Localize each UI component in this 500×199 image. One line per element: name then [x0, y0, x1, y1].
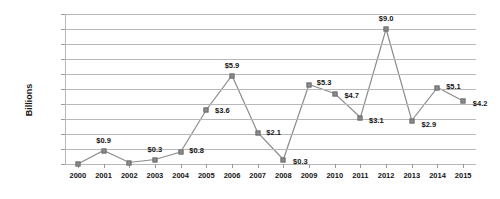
y-tick-mark: [61, 89, 65, 90]
gridline: [65, 104, 476, 105]
x-tick-mark: [437, 164, 438, 168]
y-tick-mark: [61, 134, 65, 135]
data-point-label: $5.3: [317, 77, 332, 86]
gridline: [65, 119, 476, 120]
data-point-marker: [101, 148, 106, 153]
data-point-marker: [127, 160, 132, 165]
data-point-label: $5.1: [446, 81, 461, 90]
y-tick-mark: [61, 104, 65, 105]
data-point-marker: [152, 157, 157, 162]
data-point-label: $5.9: [225, 60, 240, 69]
y-axis-title: Billions: [24, 83, 34, 116]
data-point-marker: [384, 27, 389, 32]
data-point-label: $0.3: [293, 156, 308, 165]
x-tick-mark: [232, 164, 233, 168]
data-point-label: $2.9: [421, 119, 436, 128]
data-point-label: $0.9: [96, 135, 111, 144]
x-tick-label: 2001: [95, 171, 112, 180]
data-point-marker: [281, 157, 286, 162]
data-point-label: $4.7: [344, 90, 359, 99]
data-point-marker: [435, 85, 440, 90]
x-tick-mark: [206, 164, 207, 168]
series-polyline: [78, 29, 463, 164]
x-tick-mark: [463, 164, 464, 168]
x-tick-label: 2000: [70, 171, 87, 180]
data-point-marker: [75, 162, 80, 167]
data-point-label: $3.1: [369, 115, 384, 124]
gridline: [65, 74, 476, 75]
data-point-marker: [307, 82, 312, 87]
x-tick-label: 2008: [275, 171, 292, 180]
data-point-label: $0.3: [148, 144, 163, 153]
data-point-marker: [409, 118, 414, 123]
x-tick-mark: [155, 164, 156, 168]
x-tick-label: 2012: [378, 171, 395, 180]
data-point-marker: [332, 91, 337, 96]
x-tick-label: 2004: [172, 171, 189, 180]
data-point-marker: [178, 150, 183, 155]
y-tick-mark: [61, 119, 65, 120]
x-tick-label: 2005: [198, 171, 215, 180]
x-tick-label: 2007: [249, 171, 266, 180]
data-point-label: $4.2: [473, 99, 488, 108]
x-tick-mark: [412, 164, 413, 168]
data-point-label: $3.6: [215, 106, 230, 115]
x-tick-mark: [386, 164, 387, 168]
x-tick-mark: [335, 164, 336, 168]
gridline: [65, 59, 476, 60]
line-chart: Billions $-$1.0$2.0$3.0$4.0$5.0$6.0$7.0$…: [0, 0, 500, 199]
x-tick-mark: [181, 164, 182, 168]
x-tick-label: 2006: [224, 171, 241, 180]
data-point-marker: [255, 130, 260, 135]
x-tick-label: 2013: [403, 171, 420, 180]
data-point-marker: [204, 108, 209, 113]
data-point-marker: [229, 73, 234, 78]
x-tick-label: 2009: [301, 171, 318, 180]
x-tick-mark: [258, 164, 259, 168]
x-tick-mark: [283, 164, 284, 168]
y-tick-mark: [61, 149, 65, 150]
x-tick-mark: [104, 164, 105, 168]
y-tick-mark: [61, 59, 65, 60]
x-tick-label: 2014: [429, 171, 446, 180]
x-tick-label: 2003: [147, 171, 164, 180]
y-tick-mark: [61, 14, 65, 15]
y-tick-mark: [61, 74, 65, 75]
data-point-label: $2.1: [266, 127, 281, 136]
gridline: [65, 89, 476, 90]
x-tick-mark: [360, 164, 361, 168]
data-point-label: $0.8: [189, 146, 204, 155]
gridline: [65, 14, 476, 15]
plot-area: $-$1.0$2.0$3.0$4.0$5.0$6.0$7.0$8.0$9.0$1…: [65, 14, 476, 164]
x-tick-label: 2002: [121, 171, 138, 180]
x-tick-label: 2015: [455, 171, 472, 180]
x-tick-mark: [309, 164, 310, 168]
data-point-marker: [358, 115, 363, 120]
y-tick-mark: [61, 44, 65, 45]
gridline: [65, 149, 476, 150]
gridline: [65, 44, 476, 45]
data-point-label: $9.0: [379, 14, 394, 23]
x-tick-label: 2011: [352, 171, 368, 180]
gridline: [65, 29, 476, 30]
y-tick-mark: [61, 164, 65, 165]
x-tick-label: 2010: [326, 171, 343, 180]
y-tick-mark: [61, 29, 65, 30]
data-point-marker: [461, 99, 466, 104]
